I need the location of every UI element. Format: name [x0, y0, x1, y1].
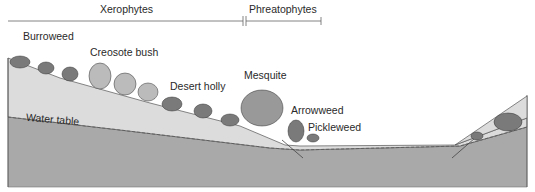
xerophytes-bracket: [8, 16, 243, 26]
phreatophytes-bracket: [246, 16, 321, 26]
plant-label-arrowweed: Arrowweed: [291, 104, 344, 116]
phreatophytes-label: Phreatophytes: [249, 3, 317, 15]
plant-label-mesquite: Mesquite: [244, 69, 287, 81]
xerophytes-label: Xerophytes: [100, 3, 153, 15]
saturated-zone: [8, 117, 527, 187]
plant-label-burroweed: Burroweed: [23, 30, 74, 42]
desert-vegetation-diagram: [0, 0, 535, 192]
plant-label-desert-holly: Desert holly: [170, 80, 225, 92]
plant-label-creosote-bush: Creosote bush: [90, 46, 158, 58]
plant-label-pickleweed: Pickleweed: [308, 121, 361, 133]
